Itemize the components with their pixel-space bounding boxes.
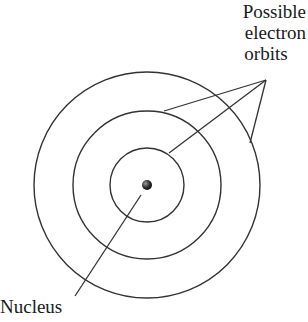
orbits-label: Possible electron orbits <box>196 1 306 64</box>
orbits-label-line1: Possible <box>196 1 306 22</box>
nucleus-label: Nucleus <box>0 296 62 317</box>
nucleus <box>142 180 152 190</box>
orbits-label-line2: electron <box>196 22 306 43</box>
orbit-leader-lines <box>164 80 266 153</box>
nucleus-leader-line <box>75 195 141 296</box>
orbits-label-line3: orbits <box>196 43 306 64</box>
